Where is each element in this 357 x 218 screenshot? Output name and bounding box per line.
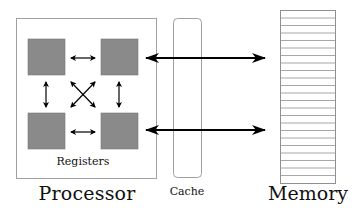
register-bottom-left	[28, 113, 65, 149]
registers-label: Registers	[48, 155, 118, 168]
processor-label: Processor	[16, 182, 158, 204]
register-top-left	[28, 39, 65, 75]
memory-arrows	[146, 58, 265, 130]
register-top-right	[101, 39, 138, 75]
cache-box	[174, 19, 202, 178]
memory-label: Memory	[266, 182, 350, 204]
memory-block	[281, 11, 336, 184]
register-bottom-right	[101, 113, 138, 149]
cache-label: Cache	[164, 185, 210, 198]
